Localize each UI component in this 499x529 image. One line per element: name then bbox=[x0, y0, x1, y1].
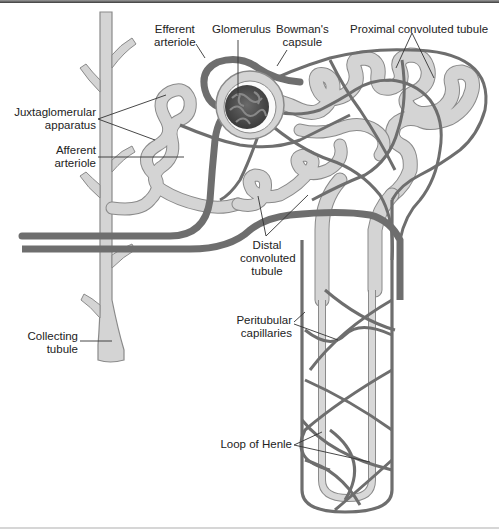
label-text: Efferent bbox=[154, 23, 196, 36]
glomerulus-shape bbox=[225, 85, 269, 129]
label-text: capillaries bbox=[220, 327, 292, 340]
label-juxtaglomerular-apparatus: Juxtaglomerular apparatus bbox=[2, 106, 96, 132]
loop-of-henle-shape bbox=[322, 180, 392, 498]
label-text: Distal bbox=[240, 239, 294, 252]
collecting-tubule-shape bbox=[80, 12, 136, 362]
label-efferent-arteriole: Efferent arteriole bbox=[154, 23, 196, 49]
label-text: arteriole bbox=[2, 157, 96, 170]
label-glomerulus: Glomerulus bbox=[212, 23, 271, 36]
afferent-arteriole-shape bbox=[22, 105, 400, 300]
label-text: Proximal convoluted tubule bbox=[350, 23, 488, 36]
label-text: Juxtaglomerular bbox=[2, 106, 96, 119]
label-text: Glomerulus bbox=[212, 23, 271, 36]
label-bowmans-capsule: Bowman's capsule bbox=[276, 23, 329, 49]
label-text: Bowman's bbox=[276, 23, 329, 36]
label-text: Peritubular bbox=[220, 314, 292, 327]
label-text: capsule bbox=[276, 36, 329, 49]
label-text: Collecting bbox=[2, 330, 78, 343]
label-text: Loop of Henle bbox=[200, 438, 292, 451]
label-text: arteriole bbox=[154, 36, 196, 49]
label-text: tubule bbox=[2, 343, 78, 356]
label-text: tubule bbox=[240, 265, 294, 278]
label-distal-convoluted-tubule: Distal convoluted tubule bbox=[240, 239, 294, 278]
label-text: convoluted bbox=[240, 252, 294, 265]
peritubular-capillaries-shape bbox=[301, 290, 395, 510]
label-afferent-arteriole: Afferent arteriole bbox=[2, 144, 96, 170]
label-peritubular-capillaries: Peritubular capillaries bbox=[220, 314, 292, 340]
label-text: Afferent bbox=[2, 144, 96, 157]
label-proximal-convoluted-tubule: Proximal convoluted tubule bbox=[350, 23, 488, 36]
label-loop-of-henle: Loop of Henle bbox=[200, 438, 292, 451]
label-text: apparatus bbox=[2, 119, 96, 132]
label-collecting-tubule: Collecting tubule bbox=[2, 330, 78, 356]
